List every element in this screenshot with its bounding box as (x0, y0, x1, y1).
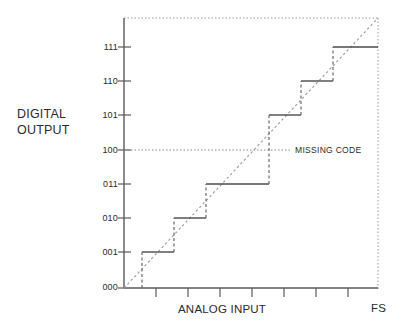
missing-code-annotation: MISSING CODE (295, 143, 361, 157)
full-scale-label: FS (371, 301, 386, 315)
y-axis-title-line1: DIGITAL (17, 107, 66, 121)
plot-area (0, 0, 410, 330)
ytick-label-010: 010 (92, 213, 118, 223)
x-axis-title: ANALOG INPUT (178, 302, 266, 316)
ytick-label-100: 100 (92, 145, 118, 155)
y-axis-title: DIGITALOUTPUT (17, 106, 70, 138)
ytick-label-011: 011 (92, 179, 118, 189)
ytick-label-001: 001 (92, 247, 118, 257)
x-tick-marks (156, 288, 348, 297)
ytick-label-110: 110 (92, 76, 118, 86)
ytick-label-101: 101 (92, 110, 118, 120)
ytick-label-111: 111 (92, 42, 118, 52)
y-axis-title-line2: OUTPUT (17, 123, 70, 137)
adc-missing-code-figure: 111 110 101 100 011 010 001 000 DIGITALO… (0, 0, 410, 330)
ytick-label-000: 000 (92, 282, 118, 292)
